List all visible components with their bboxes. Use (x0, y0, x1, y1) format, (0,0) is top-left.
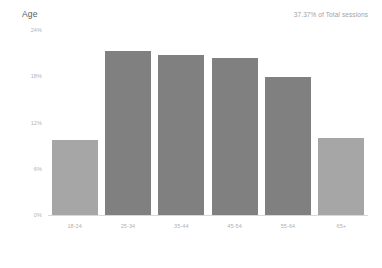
widget-header: Age 37.37% of Total sessions (22, 9, 368, 23)
x-axis-tick-65+: 65+ (315, 223, 368, 235)
bar-35-44[interactable] (158, 55, 204, 215)
x-axis-tick-18-24: 18-24 (48, 223, 101, 235)
x-axis-tick-25-34: 25-34 (101, 223, 154, 235)
total-sessions-label: 37.37% of Total sessions (294, 11, 368, 18)
bar-65+[interactable] (318, 138, 364, 215)
bar-slot (155, 30, 208, 215)
x-axis-labels: 18-2425-3435-4445-5455-6465+ (48, 223, 368, 235)
plot-area: 18-2425-3435-4445-5455-6465+ (48, 30, 368, 245)
y-axis-tick: 24% (31, 27, 42, 33)
y-axis: 0%6%12%18%24% (22, 30, 46, 245)
bar-slot (101, 30, 154, 215)
bar-chart: 0%6%12%18%24% 18-2425-3435-4445-5455-646… (22, 30, 368, 245)
x-axis-line (48, 215, 368, 216)
age-chart-widget: Age 37.37% of Total sessions 0%6%12%18%2… (0, 0, 382, 268)
bar-45-54[interactable] (212, 58, 258, 215)
y-axis-tick: 12% (31, 120, 42, 126)
bar-slot (315, 30, 368, 215)
page-title: Age (22, 9, 38, 19)
y-axis-tick: 18% (31, 73, 42, 79)
bar-55-64[interactable] (265, 77, 311, 215)
bar-slot (208, 30, 261, 215)
bar-18-24[interactable] (52, 140, 98, 215)
x-axis-tick-45-54: 45-54 (208, 223, 261, 235)
x-axis-tick-35-44: 35-44 (155, 223, 208, 235)
bar-25-34[interactable] (105, 51, 151, 215)
bar-slot (48, 30, 101, 215)
bar-slot (261, 30, 314, 215)
bar-series (48, 30, 368, 215)
x-axis-tick-55-64: 55-64 (261, 223, 314, 235)
y-axis-tick: 6% (34, 166, 42, 172)
y-axis-tick: 0% (34, 212, 42, 218)
